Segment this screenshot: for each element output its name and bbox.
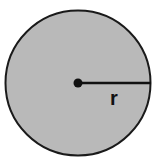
radius-label: r <box>110 87 118 109</box>
circle-diagram: r <box>0 0 165 160</box>
center-point <box>74 79 83 88</box>
